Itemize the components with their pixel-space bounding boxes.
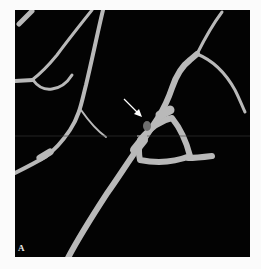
vessel-right-curve	[197, 54, 245, 112]
vessel-upper-left	[32, 10, 92, 80]
vessel-node-upper	[160, 110, 170, 115]
vessel-upper-right	[197, 12, 222, 54]
vessel-branch-left	[15, 80, 33, 81]
arrow-icon	[124, 99, 142, 117]
vessel-stub-top-left	[19, 11, 32, 24]
vessel-branch-curve	[33, 75, 72, 89]
vessel-small-branch	[81, 110, 106, 137]
panel-label: A	[18, 243, 25, 253]
lesion-spot	[143, 121, 151, 131]
vessel-long-left	[15, 10, 103, 173]
figure: A	[0, 0, 261, 269]
vessel-loop-extension	[188, 156, 212, 158]
vessel-tree	[0, 0, 261, 269]
vessel-bulge	[40, 152, 50, 158]
vessel-junction-thick	[135, 140, 143, 150]
